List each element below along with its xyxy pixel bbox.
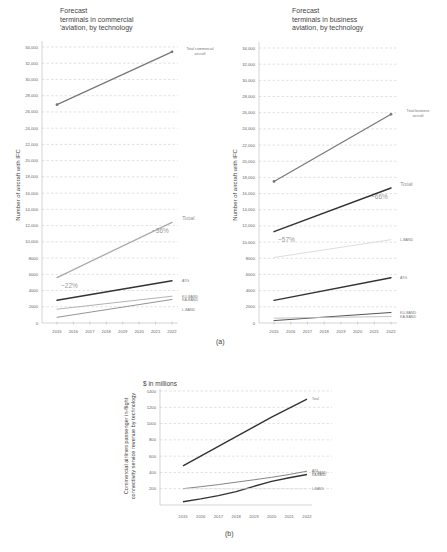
caption-a: (a) — [216, 338, 225, 346]
chart-title: terminals in business — [292, 16, 358, 23]
chart-business-terminals: Forecastterminals in businessaviation, b… — [232, 7, 430, 334]
chart-title: 'aviation, by technology — [60, 24, 133, 32]
series-line — [183, 471, 307, 489]
y-tick-label: 34,000 — [242, 46, 255, 51]
data-point — [171, 50, 174, 53]
figure-canvas: Forecastterminals in commercial'aviation… — [0, 0, 447, 552]
series-label: aircraft — [413, 114, 424, 118]
series-line — [274, 114, 391, 181]
y-tick-label: 1000 — [147, 421, 157, 426]
x-tick-label: 2018 — [319, 329, 329, 334]
x-tick-label: 2017 — [85, 329, 95, 334]
y-tick-label: 14,000 — [25, 207, 38, 212]
chart-title: Forecast — [60, 7, 87, 14]
series-label: KA-BAND — [182, 298, 198, 302]
series-label: Total — [312, 397, 319, 401]
y-axis-label: Number of aircraft with IFC — [232, 148, 238, 220]
series-line — [57, 52, 172, 105]
x-tick-label: 2021 — [285, 514, 295, 519]
x-tick-label: 2022 — [386, 329, 396, 334]
series-line — [57, 296, 172, 309]
y-tick-label: 26,000 — [25, 109, 38, 114]
series-label: L-BAND — [400, 238, 414, 242]
x-tick-label: 2020 — [134, 329, 144, 334]
series-line — [183, 475, 307, 502]
x-tick-label: 2015 — [178, 514, 188, 519]
y-tick-label: 0 — [36, 321, 39, 326]
y-tick-label: 600 — [149, 454, 157, 459]
growth-annotation: ~22% — [61, 282, 78, 289]
y-tick-label: 22,000 — [25, 142, 38, 147]
series-label: Total commercial — [187, 47, 214, 51]
caption-b: (b) — [225, 530, 234, 538]
y-tick-label: 4000 — [29, 288, 39, 293]
y-tick-label: 22,000 — [242, 143, 255, 148]
x-tick-label: 2021 — [370, 329, 380, 334]
series-label: Total — [182, 215, 195, 221]
series-label: KA-BAND — [400, 315, 416, 319]
chart-title: aviation, by technology — [292, 24, 364, 32]
y-tick-label: 400 — [149, 470, 157, 475]
y-tick-label: 20,000 — [242, 159, 255, 164]
series-label: Total business — [407, 109, 430, 113]
x-tick-label: 2018 — [231, 514, 241, 519]
x-tick-label: 2017 — [214, 514, 224, 519]
y-tick-label: 16,000 — [242, 191, 255, 196]
series-label: aircraft — [195, 52, 206, 56]
y-axis-label: Number of aircraft with IFC — [15, 148, 21, 220]
y-tick-label: 14,000 — [242, 207, 255, 212]
y-tick-label: 1200 — [147, 405, 157, 410]
y-tick-label: 18,000 — [242, 175, 255, 180]
x-tick-label: 2015 — [269, 329, 279, 334]
y-tick-label: 4000 — [246, 288, 256, 293]
y-tick-label: 32,000 — [242, 62, 255, 67]
series-label: L-BAND — [182, 308, 196, 312]
x-tick-label: 2018 — [102, 329, 112, 334]
y-tick-label: 24,000 — [242, 126, 255, 131]
x-tick-label: 2020 — [353, 329, 363, 334]
x-tick-label: 2022 — [302, 514, 312, 519]
y-tick-label: 34,000 — [25, 45, 38, 50]
y-tick-label: 24,000 — [25, 126, 38, 131]
y-tick-label: 10,000 — [242, 240, 255, 245]
y-tick-label: 8000 — [246, 256, 256, 261]
y-tick-label: 18,000 — [25, 174, 38, 179]
chart-title: $ in millions — [143, 380, 178, 387]
x-tick-label: 2019 — [249, 514, 259, 519]
y-tick-label: 2000 — [29, 304, 39, 309]
y-tick-label: 8000 — [29, 256, 39, 261]
y-tick-label: 30,000 — [242, 78, 255, 83]
y-tick-label: 28,000 — [242, 94, 255, 99]
y-tick-label: 26,000 — [242, 110, 255, 115]
x-tick-label: 2016 — [69, 329, 79, 334]
chart-commercial-terminals: Forecastterminals in commercial'aviation… — [15, 7, 214, 334]
x-tick-label: 2022 — [167, 329, 177, 334]
y-tick-label: 6000 — [29, 272, 39, 277]
x-tick-label: 2015 — [52, 329, 62, 334]
y-tick-label: 2000 — [246, 304, 256, 309]
y-tick-label: 32,000 — [25, 61, 38, 66]
y-tick-label: 28,000 — [25, 93, 38, 98]
chart-title: terminals in commercial — [60, 16, 134, 23]
x-tick-label: 2020 — [267, 514, 277, 519]
growth-annotation: ~36% — [152, 227, 169, 234]
series-line — [274, 278, 391, 301]
x-tick-label: 2016 — [286, 329, 296, 334]
data-point — [56, 103, 59, 106]
y-tick-label: 16,000 — [25, 191, 38, 196]
y-tick-label: 1400 — [147, 389, 157, 394]
chart-title: Forecast — [292, 7, 319, 14]
y-tick-label: 6000 — [246, 272, 256, 277]
series-label: ATG — [182, 279, 189, 283]
y-tick-label: 200 — [149, 486, 157, 491]
x-tick-label: 2017 — [303, 329, 313, 334]
y-tick-label: 10,000 — [25, 239, 38, 244]
data-point — [390, 113, 393, 116]
series-label: KA-BAND — [312, 473, 327, 477]
y-tick-label: 12,000 — [242, 223, 255, 228]
y-tick-label: 30,000 — [25, 77, 38, 82]
x-tick-label: 2019 — [336, 329, 346, 334]
y-axis-label: connectivity service revenue by technolo… — [130, 393, 136, 500]
y-tick-label: 12,000 — [25, 223, 38, 228]
y-axis-label: Commercial airlines passenger in-flight — [123, 397, 129, 494]
